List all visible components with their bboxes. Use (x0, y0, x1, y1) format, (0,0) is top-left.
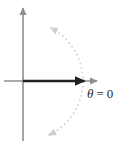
zero-value: 0 (107, 86, 114, 101)
theta-symbol: θ (87, 86, 94, 101)
figure-canvas: θ=0 (0, 0, 127, 148)
equals-sign: = (96, 86, 103, 101)
theta-equals-zero-label: θ=0 (87, 86, 113, 101)
polar-axis-figure: θ=0 (0, 0, 127, 148)
